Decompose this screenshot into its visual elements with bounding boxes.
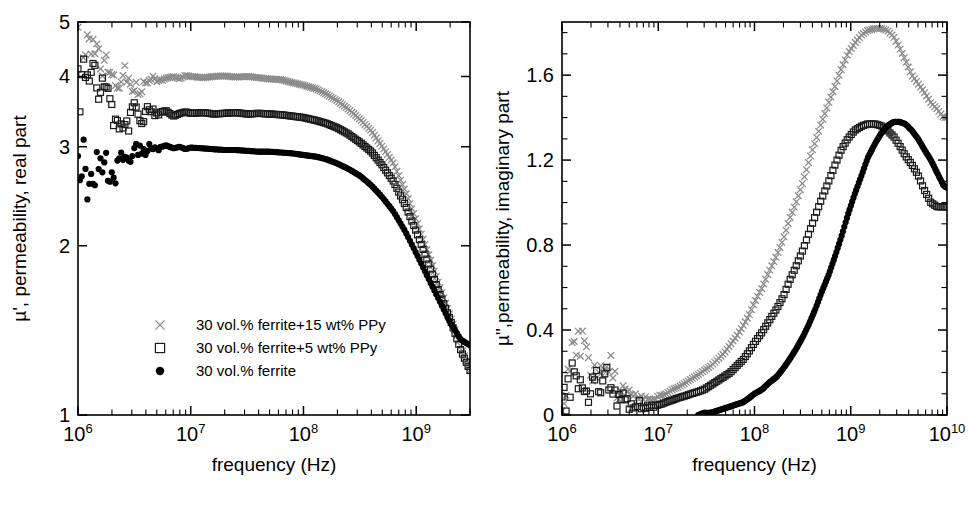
data-series-cross <box>559 25 951 414</box>
data-point-marker <box>585 399 591 405</box>
y-axis-title: µ', permeability, real part <box>9 115 30 322</box>
data-point-marker <box>77 8 84 15</box>
legend-item: 30 vol.% ferrite <box>156 362 296 379</box>
chart-svg-real-part: 106107108109frequency (Hz)12345µ', perme… <box>0 0 485 517</box>
x-axis-tick-labels: 106107108109 <box>63 421 431 445</box>
data-point-marker <box>777 300 783 306</box>
y-tick-label: 5 <box>59 11 70 33</box>
data-point-marker <box>887 130 893 136</box>
y-tick-label: 3 <box>59 136 70 158</box>
data-point-marker <box>94 149 100 155</box>
y-axis-tick-labels: 00.40.81.21.6 <box>526 64 554 426</box>
data-point-marker <box>92 62 98 68</box>
data-point-marker <box>573 373 579 379</box>
data-point-marker <box>82 166 88 172</box>
x-tick-label: 109 <box>836 421 865 445</box>
data-point-marker <box>401 200 407 206</box>
plot-area: 1061071081091010frequency (Hz)00.40.81.2… <box>492 22 965 475</box>
data-point-marker <box>779 296 785 302</box>
plot-area: 106107108109frequency (Hz)12345µ', perme… <box>9 8 473 475</box>
data-point-marker <box>103 150 109 156</box>
y-axis-title: µ",permeability, imaginary part <box>492 90 513 346</box>
x-tick-label: 1010 <box>929 421 966 445</box>
axes-frame <box>562 22 947 415</box>
data-point-marker <box>924 191 930 197</box>
data-point-marker <box>577 377 583 383</box>
legend-item: 30 vol.% ferrite+15 wt% PPy <box>155 316 386 333</box>
chart-svg-imaginary-part: 1061071081091010frequency (Hz)00.40.81.2… <box>485 0 969 517</box>
data-point-marker <box>84 196 90 202</box>
x-tick-label: 109 <box>401 421 430 445</box>
data-point-marker <box>569 360 575 366</box>
data-point-marker <box>394 185 400 191</box>
data-point-marker <box>131 100 137 106</box>
y-tick-label: 1.2 <box>526 149 554 171</box>
data-series-group <box>559 25 951 418</box>
y-tick-label: 1 <box>59 404 70 426</box>
x-axis-title: frequency (Hz) <box>212 454 337 475</box>
data-point-marker <box>77 8 84 15</box>
x-tick-label: 108 <box>289 421 318 445</box>
x-axis-ticks <box>562 22 947 415</box>
y-tick-label: 0.4 <box>526 319 554 341</box>
legend-label: 30 vol.% ferrite <box>196 362 296 379</box>
data-point-marker <box>734 362 740 368</box>
data-point-marker <box>398 193 404 199</box>
data-point-marker <box>109 169 115 175</box>
data-point-marker <box>606 387 612 393</box>
data-point-marker <box>112 180 118 186</box>
chart-panel-real-part: 106107108109frequency (Hz)12345µ', perme… <box>0 0 485 517</box>
legend-item: 30 vol.% ferrite+5 wt% PPy <box>155 339 377 356</box>
data-point-marker <box>600 378 606 384</box>
data-point-marker <box>565 376 571 382</box>
data-point-marker <box>732 365 738 371</box>
data-point-marker <box>936 204 942 210</box>
data-point-marker <box>736 360 742 366</box>
data-point-marker <box>803 237 809 243</box>
data-point-marker <box>94 85 100 91</box>
data-point-marker <box>155 343 164 352</box>
data-point-marker <box>156 367 164 375</box>
y-tick-label: 4 <box>59 65 70 87</box>
data-point-marker <box>79 173 85 179</box>
data-point-marker <box>608 385 614 391</box>
legend-marker-cross <box>155 320 164 329</box>
y-axis-tick-labels: 12345 <box>59 11 70 426</box>
x-axis-title: frequency (Hz) <box>692 454 817 475</box>
y-tick-label: 0 <box>543 404 554 426</box>
x-axis-tick-labels: 1061071081091010 <box>547 421 965 445</box>
legend-label: 30 vol.% ferrite+15 wt% PPy <box>196 316 386 333</box>
legend: 30 vol.% ferrite+15 wt% PPy30 vol.% ferr… <box>155 316 386 379</box>
data-point-marker <box>109 101 115 107</box>
data-point-marker <box>129 153 135 159</box>
data-point-marker <box>99 169 105 175</box>
data-point-marker <box>111 175 117 181</box>
data-point-marker <box>730 367 736 373</box>
data-point-marker <box>135 111 141 117</box>
data-point-marker <box>78 10 85 17</box>
x-tick-label: 107 <box>644 421 673 445</box>
data-point-marker <box>869 121 875 127</box>
data-point-marker <box>88 171 94 177</box>
data-point-marker <box>940 204 946 210</box>
data-series-open-square <box>559 121 950 414</box>
figure-root: 106107108109frequency (Hz)12345µ', perme… <box>0 0 969 517</box>
data-point-marker <box>78 10 85 17</box>
chart-panel-imaginary-part: 1061071081091010frequency (Hz)00.40.81.2… <box>485 0 969 517</box>
data-point-marker <box>938 204 944 210</box>
y-tick-label: 2 <box>59 235 70 257</box>
y-tick-label: 0.8 <box>526 234 554 256</box>
legend-marker-open-square <box>155 343 164 352</box>
data-point-marker <box>614 403 620 409</box>
y-axis-ticks <box>562 33 947 415</box>
data-point-marker <box>92 182 98 188</box>
data-point-marker <box>90 60 96 66</box>
data-point-marker <box>107 96 113 102</box>
x-tick-label: 107 <box>176 421 205 445</box>
data-point-marker <box>81 137 87 143</box>
x-tick-label: 108 <box>740 421 769 445</box>
data-point-marker <box>96 96 102 102</box>
legend-label: 30 vol.% ferrite+5 wt% PPy <box>196 339 378 356</box>
legend-marker-filled-circle <box>156 367 164 375</box>
data-point-marker <box>127 159 133 165</box>
